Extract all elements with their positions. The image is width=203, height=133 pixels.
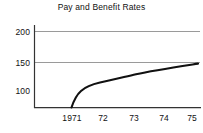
x-tick-label-1971: 1971 bbox=[58, 113, 86, 123]
x-tick-label-72: 72 bbox=[92, 113, 114, 123]
y-tick-label-150: 150 bbox=[4, 58, 30, 68]
x-tick-label-73: 73 bbox=[123, 113, 145, 123]
y-tick-label-200: 200 bbox=[4, 27, 30, 37]
data-series-pay-and-benefit-rates bbox=[72, 64, 199, 108]
chart-figure: Pay and Benefit Rates 200 150 100 1971 7… bbox=[0, 0, 203, 133]
gridlines bbox=[34, 32, 200, 63]
x-tick-label-74: 74 bbox=[153, 113, 175, 123]
data-line bbox=[72, 64, 199, 108]
y-tick-label-100: 100 bbox=[4, 86, 30, 96]
x-tick-label-75: 75 bbox=[181, 113, 203, 123]
